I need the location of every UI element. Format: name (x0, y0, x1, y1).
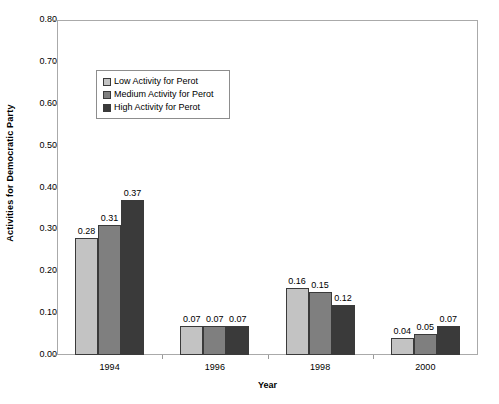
bar (332, 305, 355, 355)
bar (414, 334, 437, 355)
legend-swatch-low-activity-icon (103, 78, 111, 86)
x-axis-tick-label: 1998 (268, 362, 373, 372)
bar-value-label: 0.12 (329, 293, 358, 303)
x-axis-tick-mark (268, 355, 269, 359)
y-axis-tick-label: 0.30 (11, 224, 57, 233)
x-axis-tick-labels: 1994199619982000 (57, 362, 478, 376)
bar (75, 238, 98, 355)
y-axis-tick-label: 0.40 (11, 183, 57, 192)
bar (286, 288, 309, 355)
bar-value-label: 0.31 (95, 213, 124, 223)
bar-value-label: 0.07 (434, 314, 463, 324)
bar-value-label: 0.07 (223, 314, 252, 324)
y-axis-tick-label: 0.20 (11, 266, 57, 275)
x-axis-tick-mark (162, 355, 163, 359)
legend-item: High Activity for Perot (103, 101, 224, 114)
x-axis-tick-label: 1996 (162, 362, 267, 372)
bar (226, 326, 249, 355)
legend-label: Medium Activity for Perot (114, 90, 214, 99)
bar-value-label: 0.15 (306, 280, 335, 290)
y-axis-tick-labels: 0.800.700.600.500.400.300.200.100.00 (0, 20, 57, 355)
bar (391, 338, 414, 355)
bar (121, 200, 144, 355)
bar-value-label: 0.28 (72, 226, 101, 236)
legend-label: Low Activity for Perot (114, 77, 198, 86)
bar-value-label: 0.37 (118, 188, 147, 198)
x-axis-tick-label: 2000 (373, 362, 478, 372)
bar (180, 326, 203, 355)
legend-swatch-medium-activity-icon (103, 91, 111, 99)
y-axis-tick-label: 0.60 (11, 99, 57, 108)
legend-item: Low Activity for Perot (103, 75, 224, 88)
legend-label: High Activity for Perot (114, 103, 200, 112)
y-axis-tick-mark (53, 355, 57, 356)
bar (203, 326, 226, 355)
y-axis-tick-label: 0.70 (11, 57, 57, 66)
x-axis-tick-mark (373, 355, 374, 359)
y-axis-tick-label: 0.50 (11, 141, 57, 150)
x-axis-tick-label: 1994 (57, 362, 162, 372)
y-axis-tick-label: 0.10 (11, 308, 57, 317)
legend-item: Medium Activity for Perot (103, 88, 224, 101)
legend-swatch-high-activity-icon (103, 104, 111, 112)
y-axis-tick-label: 0.00 (11, 350, 57, 359)
x-axis-title: Year (57, 380, 478, 390)
bar (98, 225, 121, 355)
chart-legend: Low Activity for Perot Medium Activity f… (96, 70, 230, 119)
bar-chart-figure: Activities for Democratic Party 0.800.70… (0, 0, 499, 404)
bar (437, 326, 460, 355)
y-axis-tick-label: 0.80 (11, 15, 57, 24)
